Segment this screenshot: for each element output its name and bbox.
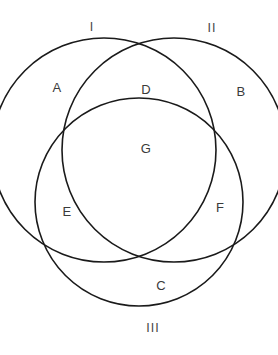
region-label-d: D (141, 83, 151, 96)
circle-two (62, 38, 278, 262)
circle-label-three: III (146, 322, 159, 335)
region-label-e: E (63, 205, 72, 218)
circle-one (0, 38, 216, 262)
region-label-f: F (216, 201, 224, 214)
region-label-b: B (237, 85, 246, 98)
circle-label-two: II (208, 22, 217, 35)
region-label-a: A (53, 81, 62, 94)
circle-label-one: I (90, 21, 94, 34)
venn-diagram: I II III A B C D E F G (0, 0, 278, 355)
region-label-g: G (141, 142, 151, 155)
region-label-c: C (156, 279, 166, 292)
venn-circles-group (0, 0, 278, 355)
circle-three (35, 98, 243, 306)
